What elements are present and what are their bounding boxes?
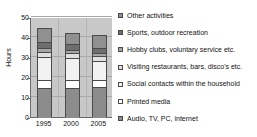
bar-segment[interactable] xyxy=(66,89,79,118)
y-tick-label-20: 20 xyxy=(3,74,29,81)
y-tick-label-0: 0 xyxy=(3,114,29,121)
bar-segment[interactable] xyxy=(38,58,51,80)
legend-label: Visiting restaurants, bars, disco's etc. xyxy=(127,63,242,71)
legend-item[interactable]: Social contacts within the household xyxy=(118,76,257,93)
legend-label: Audio, TV, PC, internet xyxy=(127,115,198,123)
bar-segment[interactable] xyxy=(38,81,51,90)
bar-segment[interactable] xyxy=(93,36,106,49)
legend-label: Sports, outdoor recreation xyxy=(127,29,208,37)
legend-swatch-icon xyxy=(118,47,123,52)
y-tick-label-10: 10 xyxy=(3,94,29,101)
legend-swatch-icon xyxy=(118,65,123,70)
bar-segment[interactable] xyxy=(66,59,79,81)
category-separator xyxy=(86,18,87,117)
bar-segment[interactable] xyxy=(38,29,51,43)
x-tick-label-2005: 2005 xyxy=(83,120,113,127)
legend-label: Social contacts within the household xyxy=(127,80,240,88)
bar-segment[interactable] xyxy=(38,89,51,118)
bar-segment[interactable] xyxy=(66,34,79,45)
legend-item[interactable]: Audio, TV, PC, internet xyxy=(118,110,257,127)
legend-item[interactable]: Printed media xyxy=(118,93,257,110)
plot-area xyxy=(30,18,112,118)
legend-label: Printed media xyxy=(127,98,170,106)
stacked-bar-chart: Hours 01020304050 199520002005 Other act… xyxy=(0,0,257,137)
legend-item[interactable]: Hobby clubs, voluntary service etc. xyxy=(118,41,257,58)
category-separator xyxy=(58,18,59,117)
x-tick-label-1995: 1995 xyxy=(29,120,59,127)
bar-2000[interactable] xyxy=(65,33,80,117)
legend-swatch-icon xyxy=(118,99,123,104)
y-tick-label-40: 40 xyxy=(3,34,29,41)
bar-1995[interactable] xyxy=(37,28,52,117)
legend-label: Other activities xyxy=(127,12,173,20)
y-tick-label-30: 30 xyxy=(3,54,29,61)
bar-segment[interactable] xyxy=(66,81,79,89)
x-tick-label-2000: 2000 xyxy=(56,120,86,127)
y-axis-ticks: 01020304050 xyxy=(0,0,29,137)
bar-segment[interactable] xyxy=(93,81,106,88)
legend-swatch-icon xyxy=(118,30,123,35)
legend-item[interactable]: Other activities xyxy=(118,7,257,24)
legend-swatch-icon xyxy=(118,13,123,18)
legend-swatch-icon xyxy=(118,116,123,121)
legend-item[interactable]: Visiting restaurants, bars, disco's etc. xyxy=(118,59,257,76)
bar-segment[interactable] xyxy=(93,88,106,118)
legend-item[interactable]: Sports, outdoor recreation xyxy=(118,24,257,41)
y-tick-mark-0 xyxy=(27,118,30,119)
gridline-50 xyxy=(31,16,112,17)
legend-swatch-icon xyxy=(118,82,123,87)
legend-label: Hobby clubs, voluntary service etc. xyxy=(127,46,235,54)
bar-2005[interactable] xyxy=(92,35,107,117)
chart-legend: Other activitiesSports, outdoor recreati… xyxy=(118,7,257,127)
y-tick-label-50: 50 xyxy=(3,14,29,21)
bar-segment[interactable] xyxy=(93,62,106,81)
